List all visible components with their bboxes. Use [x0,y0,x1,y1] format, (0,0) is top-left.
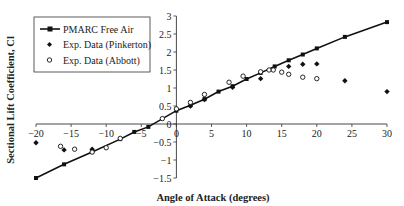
legend-label: PMARC Free Air [63,24,134,35]
square-marker-icon [343,35,347,39]
circle-marker-icon [72,147,76,151]
square-marker-icon [132,130,136,134]
square-marker-icon [385,20,389,24]
legend-label: Exp. Data (Abbott) [63,55,140,67]
circle-marker-icon [104,146,108,150]
lift-coefficient-chart: −20−15−10−5051015202530−1.5−1−0.500.511.… [0,0,404,206]
circle-marker-icon [258,70,262,74]
x-tick-label: 5 [209,128,214,139]
circle-marker-icon [287,72,291,76]
y-tick-label: 2.5 [159,29,172,40]
x-axis-title: Angle of Attack (degrees) [156,192,270,204]
x-tick-label: −15 [63,128,79,139]
diamond-marker-icon [258,76,263,81]
square-marker-icon [146,125,150,129]
circle-marker-icon [267,68,271,72]
diamond-marker-icon [342,78,347,83]
circle-marker-icon [315,76,319,80]
legend-label: Exp. Data (Pinkerton) [63,39,151,51]
y-tick-label: 1.5 [159,65,172,76]
circle-marker-icon [58,144,62,148]
x-tick-label: −10 [98,128,114,139]
circle-marker-icon [90,150,94,154]
square-marker-icon [315,46,319,50]
diamond-marker-icon [314,61,319,66]
square-marker-icon [287,58,291,62]
square-marker-icon [48,27,53,32]
circle-marker-icon [227,80,231,84]
diamond-marker-icon [286,64,291,69]
circle-marker-icon [118,136,122,140]
y-tick-label: 0 [166,119,171,130]
x-tick-label: −20 [28,128,44,139]
circle-marker-icon [47,58,51,62]
diamond-marker-icon [33,140,38,145]
square-marker-icon [217,90,221,94]
x-tick-label: 30 [382,128,392,139]
x-tick-label: 25 [347,128,357,139]
y-tick-label: 0.5 [159,101,172,112]
square-marker-icon [34,176,38,180]
diamond-marker-icon [300,62,305,67]
y-tick-label: 1 [166,83,171,94]
circle-marker-icon [301,75,305,79]
circle-marker-icon [188,100,192,104]
square-marker-icon [301,53,305,57]
legend-item-pinkerton: Exp. Data (Pinkerton) [47,39,151,51]
x-tick-label: 15 [277,128,287,139]
circle-marker-icon [174,107,178,111]
y-tick-label: 3 [166,11,171,22]
square-marker-icon [62,162,66,166]
y-tick-label: −0.5 [153,137,171,148]
y-tick-label: −1.5 [153,173,171,184]
y-tick-label: 2 [166,47,171,58]
circle-marker-icon [202,92,206,96]
y-axis-title: Sectional Lift Coefficient, Cl [5,36,16,164]
diamond-marker-icon [384,89,389,94]
circle-marker-icon [160,116,164,120]
circle-marker-icon [271,68,275,72]
x-tick-label: 10 [242,128,252,139]
circle-marker-icon [241,74,245,78]
legend: PMARC Free Air Exp. Data (Pinkerton) Exp… [34,17,151,72]
circle-marker-icon [280,70,284,74]
x-tick-label: 20 [312,128,322,139]
y-tick-label: −1 [161,155,172,166]
x-tick-label: 0 [174,128,179,139]
